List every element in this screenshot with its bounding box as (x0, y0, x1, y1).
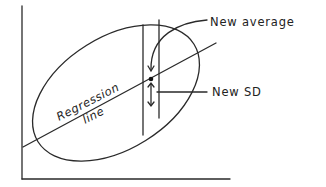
new-average-label: New average (210, 15, 295, 29)
new-average-point (149, 77, 154, 82)
regression-diagram: New average New SD Regression line (0, 0, 326, 187)
new-sd-label: New SD (212, 85, 262, 99)
regression-line (23, 43, 216, 147)
